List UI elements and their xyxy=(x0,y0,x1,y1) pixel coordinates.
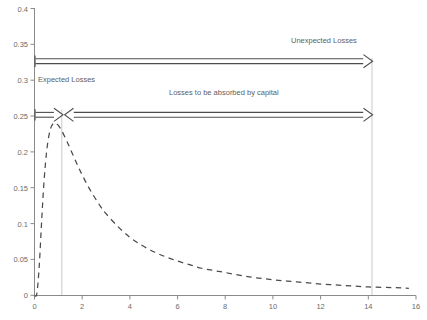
y-tick-label: 0.4 xyxy=(3,5,28,14)
expected-losses-arrow xyxy=(35,108,63,121)
y-tick-label: 0.1 xyxy=(3,220,28,229)
capital-absorbed-arrow xyxy=(65,108,373,121)
y-tick-label: 0 xyxy=(3,291,28,300)
expected-losses-label: Expected Losses xyxy=(38,75,95,84)
x-tick-label: 4 xyxy=(120,302,140,311)
y-tick-label: 0.3 xyxy=(3,76,28,85)
y-axis xyxy=(31,8,35,296)
x-tick-label: 12 xyxy=(311,302,331,311)
x-tick-label: 14 xyxy=(358,302,378,311)
y-tick-label: 0.05 xyxy=(3,255,28,264)
chart-canvas xyxy=(0,0,427,320)
x-tick-label: 10 xyxy=(263,302,283,311)
y-tick-label: 0.15 xyxy=(3,184,28,193)
x-tick-label: 0 xyxy=(25,302,45,311)
loss-density-curve xyxy=(35,123,409,296)
unexpected-losses-label: Unexpected Losses xyxy=(291,36,357,45)
y-tick-label: 0.35 xyxy=(3,40,28,49)
x-axis xyxy=(35,296,417,300)
loss-distribution-chart: 0.4 0.35 0.3 0.25 0.2 0.15 0.1 0.05 0 0 … xyxy=(0,0,427,320)
x-tick-label: 2 xyxy=(72,302,92,311)
losses-absorbed-by-capital-label: Losses to be absorbed by capital xyxy=(169,88,279,97)
x-tick-label: 16 xyxy=(406,302,426,311)
x-tick-label: 6 xyxy=(168,302,188,311)
x-tick-label: 8 xyxy=(215,302,235,311)
y-tick-label: 0.2 xyxy=(3,148,28,157)
y-tick-label: 0.25 xyxy=(3,112,28,121)
unexpected-losses-arrow xyxy=(35,55,373,68)
